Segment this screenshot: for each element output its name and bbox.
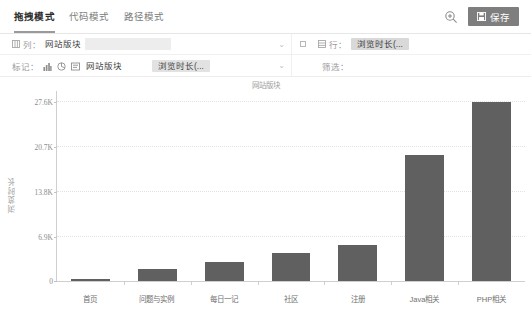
y-axis-tick-label: 13.8K <box>34 188 53 197</box>
floppy-disk-icon <box>477 12 486 21</box>
bar-cell <box>324 91 391 281</box>
shelf-row-marks: 标记： <box>0 55 531 76</box>
chart-column-header: 网站版块 <box>0 79 531 90</box>
bar-series <box>57 91 525 281</box>
y-axis-tick-label: 6.9K <box>38 233 53 242</box>
columns-shelf-dropzone[interactable] <box>85 38 171 50</box>
swap-axes-icon[interactable] <box>300 40 309 48</box>
tab-code-mode[interactable]: 代码模式 <box>69 0 110 33</box>
y-axis-tick-label: 27.6K <box>34 98 53 107</box>
shelf-panel: 列： 网站版块 ⌄ 行： 浏览时长(... <box>0 34 531 77</box>
bar-cell <box>124 91 191 281</box>
plot-region: 06.9K13.8K20.7K27.6K <box>56 91 525 282</box>
x-axis-tick-label: 问题与实例 <box>123 293 190 304</box>
chart-area: 网站版块 浏览时长 06.9K13.8K20.7K27.6K 首页问题与实例每日… <box>0 77 531 312</box>
filters-dropzone[interactable] <box>353 55 531 76</box>
columns-shelf-pill[interactable]: 网站版块 <box>45 38 85 50</box>
toolbar-actions: 保存 <box>443 7 523 26</box>
y-axis-tick-label: 0 <box>49 277 53 286</box>
y-axis-title: 浏览时长 <box>6 177 17 213</box>
marks-type-icons <box>43 57 80 75</box>
x-axis-tick-label: 每日一记 <box>190 293 257 304</box>
magnifier-plus-icon[interactable] <box>443 9 459 25</box>
x-axis-tick-label: 首页 <box>56 293 123 304</box>
marks-shelf-pill[interactable]: 浏览时长(... <box>152 60 210 72</box>
mode-tabs: 拖拽模式 代码模式 路径模式 <box>8 0 164 33</box>
columns-grid-icon <box>12 40 20 48</box>
rows-shelf-pill[interactable]: 浏览时长(... <box>351 38 409 50</box>
x-axis-tick-label: PHP相关 <box>458 293 525 304</box>
label-text-icon[interactable] <box>71 57 80 75</box>
bar[interactable] <box>138 269 177 281</box>
bar-cell <box>258 91 325 281</box>
bar-cell <box>458 91 525 281</box>
rows-grid-icon <box>318 40 326 48</box>
bar-chart-icon[interactable] <box>43 57 52 75</box>
bar-cell <box>391 91 458 281</box>
bar[interactable] <box>338 245 377 281</box>
bar-cell <box>191 91 258 281</box>
marks-shelf-caret-icon[interactable]: ⌄ <box>278 61 291 70</box>
x-axis-tick-label: 社区 <box>257 293 324 304</box>
shelf-row-columns: 列： 网站版块 ⌄ 行： 浏览时长(... <box>0 34 531 55</box>
tab-drag-mode[interactable]: 拖拽模式 <box>14 0 55 33</box>
filters-shelf-label: 筛选： <box>322 60 349 72</box>
filters-shelf[interactable]: 筛选： <box>292 55 531 76</box>
marks-shelf-label: 标记： <box>12 60 39 72</box>
color-palette-icon[interactable] <box>57 57 66 75</box>
save-button-label: 保存 <box>490 10 510 24</box>
columns-shelf-caret-icon[interactable]: ⌄ <box>278 40 291 49</box>
columns-shelf[interactable]: 列： 网站版块 ⌄ <box>0 34 292 54</box>
bar[interactable] <box>272 253 311 281</box>
y-tick-mark <box>54 281 57 282</box>
x-axis-labels: 首页问题与实例每日一记社区注册Java相关PHP相关 <box>56 293 525 304</box>
marks-field-label[interactable]: 网站版块 <box>86 60 126 72</box>
bar[interactable] <box>405 155 444 281</box>
rows-shelf[interactable]: 行： 浏览时长(... <box>292 34 531 54</box>
bar[interactable] <box>71 279 110 281</box>
bar[interactable] <box>205 262 244 281</box>
tab-path-mode[interactable]: 路径模式 <box>124 0 165 33</box>
marks-shelf[interactable]: 标记： <box>0 55 292 76</box>
bar-cell <box>57 91 124 281</box>
bar[interactable] <box>472 102 511 281</box>
analytics-app: 拖拽模式 代码模式 路径模式 保存 <box>0 0 531 317</box>
columns-shelf-label: 列： <box>23 38 41 50</box>
rows-shelf-label: 行： <box>329 38 347 50</box>
x-axis-tick-label: Java相关 <box>391 293 458 304</box>
save-button[interactable]: 保存 <box>468 7 519 26</box>
y-axis-tick-label: 20.7K <box>34 143 53 152</box>
x-axis-tick-label: 注册 <box>324 293 391 304</box>
toolbar: 拖拽模式 代码模式 路径模式 保存 <box>0 0 531 34</box>
